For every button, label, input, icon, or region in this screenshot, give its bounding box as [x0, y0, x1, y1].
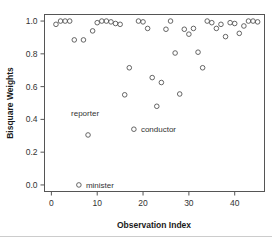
- data-point: [182, 27, 187, 32]
- data-point: [77, 183, 82, 188]
- data-point: [67, 19, 72, 24]
- scatter-plot-figure: 0102030400.00.20.40.60.81.0 ministerrepo…: [0, 0, 272, 238]
- tick-marks-group: [41, 21, 235, 195]
- data-point: [145, 26, 150, 31]
- data-point: [90, 29, 95, 34]
- data-points-group: [54, 19, 260, 187]
- data-point: [242, 24, 247, 29]
- data-point: [113, 21, 118, 26]
- data-point: [191, 26, 196, 31]
- data-point: [154, 104, 159, 109]
- tick-labels-group: 0102030400.00.20.40.60.81.0: [26, 16, 240, 207]
- data-point: [136, 19, 141, 24]
- data-point: [132, 127, 137, 132]
- data-point: [141, 20, 146, 25]
- data-point: [109, 20, 114, 25]
- data-point: [177, 92, 182, 97]
- y-tick-label: 0.2: [26, 147, 38, 157]
- data-point: [255, 20, 260, 25]
- data-point: [99, 19, 104, 24]
- data-point: [232, 21, 237, 26]
- data-point: [150, 75, 155, 80]
- data-point: [58, 19, 63, 24]
- data-point: [246, 19, 251, 24]
- y-tick-label: 0.6: [26, 82, 38, 92]
- data-point: [187, 32, 192, 37]
- y-axis-title: Bisquare Weights: [5, 67, 15, 139]
- x-tick-label: 0: [49, 198, 54, 208]
- data-point: [86, 133, 91, 138]
- y-tick-label: 0.8: [26, 49, 38, 59]
- point-annotation-label: conductor: [141, 125, 176, 134]
- data-point: [63, 19, 68, 24]
- data-point: [72, 38, 77, 43]
- data-point: [122, 93, 127, 98]
- x-tick-label: 30: [184, 198, 194, 208]
- data-point: [164, 27, 169, 32]
- data-point: [209, 20, 214, 25]
- data-point: [81, 38, 86, 43]
- data-point: [54, 22, 59, 27]
- data-point: [118, 22, 123, 27]
- x-tick-label: 40: [230, 198, 240, 208]
- data-point: [223, 34, 228, 39]
- x-axis-title: Observation Index: [117, 220, 191, 230]
- data-point: [219, 22, 224, 27]
- x-tick-label: 10: [92, 198, 102, 208]
- data-point: [200, 65, 205, 70]
- x-tick-label: 20: [138, 198, 148, 208]
- data-point: [237, 31, 242, 36]
- data-point: [173, 51, 178, 56]
- data-point: [214, 26, 219, 31]
- y-tick-label: 1.0: [26, 16, 38, 26]
- data-point: [159, 80, 164, 85]
- data-point: [228, 20, 233, 25]
- data-point: [205, 19, 210, 24]
- point-annotation-label: minister: [86, 181, 114, 190]
- data-point: [196, 50, 201, 55]
- data-point: [251, 19, 256, 24]
- y-tick-label: 0.4: [26, 114, 38, 124]
- plot-frame: [45, 15, 265, 192]
- data-point: [95, 20, 100, 25]
- point-annotation-label: reporter: [71, 109, 99, 118]
- annotations-group: ministerreporterconductor: [71, 109, 176, 190]
- plot-canvas: 0102030400.00.20.40.60.81.0 ministerrepo…: [0, 0, 272, 238]
- data-point: [168, 19, 173, 24]
- data-point: [104, 19, 109, 24]
- y-tick-label: 0.0: [26, 180, 38, 190]
- data-point: [127, 65, 132, 70]
